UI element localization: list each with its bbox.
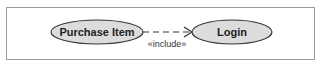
use-case-label: Purchase Item (59, 26, 134, 38)
use-case-purchase-item: Purchase Item (51, 20, 143, 44)
use-case-diagram: Purchase Item «include» Login (0, 0, 324, 65)
include-relationship: «include» (143, 27, 192, 49)
use-case-login: Login (192, 20, 272, 44)
use-case-label: Login (217, 26, 247, 38)
include-stereotype-label: «include» (148, 39, 187, 49)
